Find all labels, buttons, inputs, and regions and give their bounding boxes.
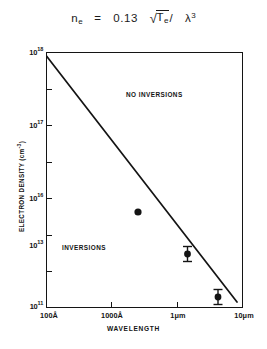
y-tick-minor-2 [46, 162, 52, 163]
data-point-3-group [214, 289, 223, 305]
y-tick-major-1e17 [46, 125, 52, 126]
annotation-no-inversions: NO INVERSIONS [126, 91, 183, 98]
x-tick-label-1um: 1μm [162, 311, 194, 320]
x-tick-1000a [111, 302, 112, 308]
title-ne-subscript: e [78, 17, 82, 26]
data-point-1 [134, 208, 141, 215]
x-tick-label-10um: 10μm [228, 311, 260, 320]
y-axis-title-close: ) [18, 141, 25, 143]
x-tick-label-1000a: 1000Å [95, 311, 129, 320]
y-axis-title-exponent: -3 [16, 143, 22, 148]
y-tick-label-1e18: 1018 [18, 46, 43, 57]
y-tick-major-1e16 [46, 198, 52, 199]
y-tick-major-1e18 [46, 52, 52, 53]
y-tick-minor-1 [46, 89, 52, 90]
title-coefficient: 0.13 [113, 12, 138, 24]
y-tick-label-1e11: 1011 [18, 300, 43, 311]
x-tick-label-100a: 100Å [33, 311, 65, 320]
y-tick-major-1e13 [46, 271, 52, 272]
y-tick-label-1e17: 1017 [18, 119, 43, 130]
y-axis-title-text: ELECTRON DENSITY (cm [18, 148, 25, 232]
x-tick-100a [46, 302, 47, 308]
title-divide: / [169, 12, 173, 24]
x-axis-title: WAVELENGTH [0, 325, 267, 332]
figure-root: ne = 0.13 √Te/ λ3 NO INVERSIO [0, 0, 267, 349]
data-point-2 [184, 251, 191, 258]
title-lambda-exponent: 3 [191, 11, 195, 20]
y-tick-label-1e13: 1013 [18, 239, 43, 250]
x-tick-10um [242, 302, 243, 308]
title-te-subscript: e [164, 16, 168, 25]
y-tick-label-1e16: 1016 [18, 192, 43, 203]
title-te-symbol: T [156, 11, 164, 23]
annotation-inversions: INVERSIONS [62, 244, 106, 251]
x-tick-1um [177, 302, 178, 308]
data-point-3 [215, 294, 222, 301]
y-axis-title: ELECTRON DENSITY (cm-3) [16, 141, 25, 232]
y-tick-minor-3 [46, 235, 52, 236]
figure-title: ne = 0.13 √Te/ λ3 [0, 10, 267, 26]
title-equals: = [94, 12, 101, 24]
data-point-2-group [183, 246, 192, 262]
